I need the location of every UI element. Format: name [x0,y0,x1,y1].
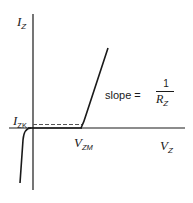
breakdown-voltage-label: VZM [74,135,93,151]
x-axis-label: VZ [160,138,173,154]
y-axis-label: IZ [17,14,26,30]
slope-numerator: 1 [158,78,174,89]
x-axis-symbol: V [160,138,168,153]
slope-denominator-subscript: Z [163,99,168,108]
breakdown-voltage-symbol: V [74,135,82,150]
reverse-breakdown-curve [20,128,31,183]
y-axis-subscript: Z [21,22,26,31]
slope-denominator: RZ [156,92,168,107]
breakdown-voltage-subscript: ZM [82,143,93,152]
knee-current-subscript: ZK [17,121,27,130]
slope-annotation-prefix: slope = [105,89,141,101]
breakdown-rise-curve [81,48,108,128]
x-axis-subscript: Z [168,146,173,155]
knee-current-label: IZK [13,113,27,129]
